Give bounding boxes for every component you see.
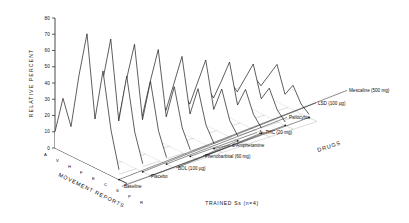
pseudo-3d-line-chart: 0 10 20 30 40 50 60 70 80 RELATIVE PERCE… [0,0,409,223]
y-tick-label: 40 [44,81,50,86]
y-tick-label: 50 [44,64,50,69]
y-axis-tick-labels: 0 10 20 30 40 50 60 70 80 [44,16,50,151]
x-tick-label: C [104,182,107,187]
y-tick-label: 0 [47,146,50,151]
series-anchor-dot [213,148,215,150]
x-tick-label: E [92,176,95,181]
series-layer [55,34,309,180]
y-tick-label: 80 [44,16,50,21]
y-axis-title: RELATIVE PERCENT [28,49,34,118]
series-label: LSD (100 µg) [318,101,346,106]
y-tick-label: 60 [44,48,50,53]
x-tick-label: V [56,158,59,163]
series-label: Mescaline (500 mg) [349,88,390,93]
figure-footnote: TRAINED Ss (n=4) [205,200,259,206]
figure-panel: 0 10 20 30 40 50 60 70 80 RELATIVE PERCE… [0,0,409,223]
series-label: BOL (100 µg) [178,166,206,171]
series-anchor-dot [166,163,168,165]
y-tick-label: 20 [44,113,50,118]
z-axis-title: DRUGS [316,140,341,153]
series-label: Phenobarbital (60 mg) [205,154,251,159]
series-anchor-dot [189,155,191,157]
y-axis-ticks [52,18,55,148]
x-tick-label: F [80,170,83,175]
x-tick-label: R [140,200,143,205]
y-axis-group: 0 10 20 30 40 50 60 70 80 RELATIVE PERCE… [28,16,55,151]
series-anchor-dot [261,132,263,134]
x-tick-label: A [44,152,47,157]
series-label: Baseline [124,184,142,189]
x-tick-label: H [68,164,71,169]
y-tick-label: 70 [44,32,50,37]
series-anchor-dot [142,171,144,173]
x-tick-label: P [128,194,131,199]
series-label: Psilocybin [289,115,310,120]
series-anchor-dot [237,140,239,142]
x-tick-label: S [116,188,119,193]
y-tick-label: 10 [44,129,50,134]
y-tick-label: 30 [44,97,50,102]
series-anchor-dot [308,117,310,119]
series-anchor-dot [118,179,120,181]
